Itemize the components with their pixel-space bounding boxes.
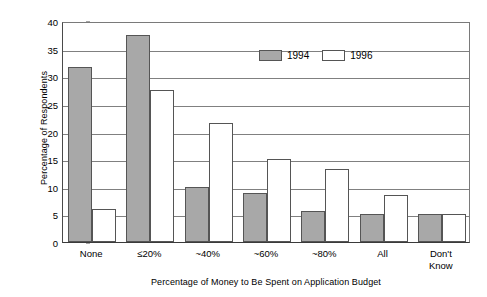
y-axis-tick-label: 30: [47, 72, 58, 83]
x-axis-title: Percentage of Money to Be Spent on Appli…: [62, 277, 470, 287]
legend-swatch-1996: [322, 50, 345, 61]
legend-swatch-1994: [259, 50, 282, 61]
legend: 19941996: [259, 50, 373, 61]
bar-1996-≤20%[interactable]: [150, 90, 174, 242]
bar-1994-~60%[interactable]: [243, 193, 267, 242]
legend-entry-1996[interactable]: 1996: [322, 50, 372, 61]
x-axis-tick-label: ~80%: [312, 248, 337, 260]
bar-1996-All[interactable]: [384, 195, 408, 242]
y-axis-tick-label: 40: [47, 17, 58, 28]
bar-1994-~40%[interactable]: [185, 187, 209, 242]
x-axis-tick-label: None: [80, 248, 103, 260]
y-axis-tick-label: 5: [53, 210, 58, 221]
y-axis-tick-label: 25: [47, 99, 58, 110]
y-axis-tick-label: 10: [47, 182, 58, 193]
x-axis-tick-label: ≤20%: [137, 248, 161, 260]
legend-label-1996: 1996: [350, 50, 372, 61]
x-axis-tick-label: ~40%: [195, 248, 220, 260]
y-axis-tick-label: 20: [47, 127, 58, 138]
bar-1994-Don't-Know[interactable]: [418, 214, 442, 242]
bar-1994-~80%[interactable]: [301, 211, 325, 242]
bar-group: [418, 23, 466, 242]
bar-group: [185, 23, 233, 242]
x-axis-tick-label: All: [377, 248, 388, 260]
y-axis-tick-label: 35: [47, 44, 58, 55]
bar-1996-Don't-Know[interactable]: [442, 214, 466, 242]
y-axis-tick-labels: 0510152025303540: [28, 16, 58, 244]
x-axis-tick-label: ~60%: [254, 248, 279, 260]
bar-1996-None[interactable]: [92, 209, 116, 242]
bar-group: [68, 23, 116, 242]
y-axis-tick-label: 0: [53, 238, 58, 249]
legend-entry-1994[interactable]: 1994: [259, 50, 309, 61]
x-axis-tick-label: Don't Know: [429, 248, 453, 272]
bar-1994-All[interactable]: [360, 214, 384, 242]
plot-area: 19941996: [62, 22, 470, 243]
bar-1994-None[interactable]: [68, 67, 92, 242]
y-axis-tick-label: 15: [47, 155, 58, 166]
bar-1996-~40%[interactable]: [209, 123, 233, 242]
bar-1996-~60%[interactable]: [267, 159, 291, 242]
bar-group: [126, 23, 174, 242]
bar-chart-figure: Percentage of Respondents 05101520253035…: [0, 0, 487, 297]
bar-1996-~80%[interactable]: [325, 169, 349, 242]
legend-label-1994: 1994: [287, 50, 309, 61]
bar-1994-≤20%[interactable]: [126, 35, 150, 242]
